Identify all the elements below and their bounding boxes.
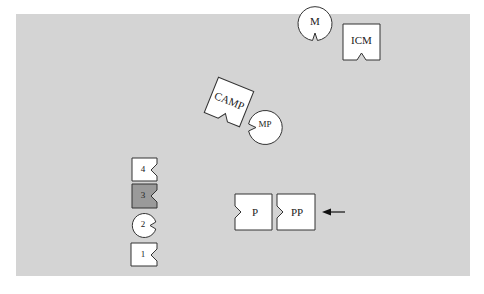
diagram: M ICM CAMP MP 4 3 2 1 P PP [0, 0, 484, 294]
node-pp: PP [277, 194, 315, 230]
node-p: P [235, 194, 272, 230]
node-3: 3 [132, 184, 157, 208]
node-pp-label: PP [291, 206, 303, 218]
node-mp-label: MP [258, 119, 271, 129]
node-3-label: 3 [141, 190, 146, 200]
node-1-label: 1 [141, 249, 146, 259]
node-mp: MP [249, 111, 283, 145]
node-1: 1 [131, 243, 157, 266]
arrow-left-icon [322, 209, 345, 216]
node-m-label: M [310, 15, 320, 27]
node-2-label: 2 [141, 219, 146, 229]
node-4-label: 4 [141, 164, 146, 174]
node-icm-label: ICM [351, 34, 372, 46]
node-4: 4 [132, 158, 157, 181]
node-icm: ICM [343, 24, 380, 60]
node-camp: CAMP [204, 77, 253, 126]
node-p-label: P [252, 206, 258, 218]
node-2: 2 [132, 214, 155, 238]
node-m: M [298, 7, 332, 41]
